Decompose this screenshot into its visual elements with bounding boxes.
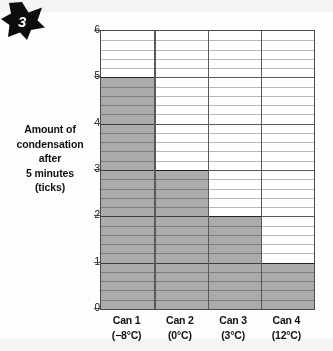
x-tick-label-temperature: (0°C) [153, 328, 206, 343]
column-dividers [101, 31, 314, 309]
x-tick-label-name: Can 1 [113, 314, 141, 326]
x-tick-label: Can 4(12°C) [260, 313, 313, 343]
x-tick-label-temperature: (3°C) [207, 328, 260, 343]
x-axis-tick-labels: Can 1(−8°C)Can 2(0°C)Can 3(3°C)Can 4(12°… [100, 313, 313, 347]
column-divider [154, 31, 155, 309]
x-tick-label-temperature: (12°C) [260, 328, 313, 343]
column-divider [261, 31, 262, 309]
x-tick-label: Can 3(3°C) [207, 313, 260, 343]
column-divider [208, 31, 209, 309]
chart-plot-area [100, 30, 315, 310]
x-tick-label-temperature: (−8°C) [100, 328, 153, 343]
x-tick-label-name: Can 3 [219, 314, 247, 326]
figure-container: 3 Amount of condensation after 5 minutes… [0, 0, 333, 351]
x-tick-label: Can 1(−8°C) [100, 313, 153, 343]
star-badge: 3 [1, 2, 45, 40]
x-tick-label-name: Can 2 [166, 314, 194, 326]
x-tick-label: Can 2(0°C) [153, 313, 206, 343]
x-tick-label-name: Can 4 [273, 314, 301, 326]
badge-number: 3 [1, 2, 45, 40]
